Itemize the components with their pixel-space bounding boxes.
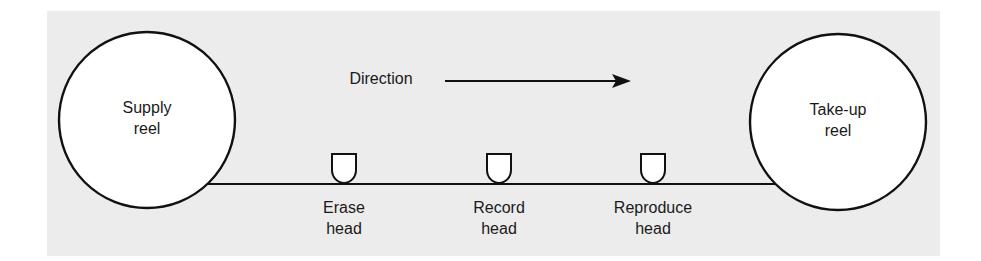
takeup-reel-label-line1: Take-up [788,99,888,120]
erase-head-icon [332,154,356,183]
direction-label: Direction [335,68,427,89]
takeup-reel-label: Take-up reel [788,99,888,141]
reproduce-head-label-line2: head [593,218,713,239]
reproduce-head-icon [641,154,665,183]
supply-reel-label-line2: reel [97,118,197,139]
reproduce-head-label-line1: Reproduce [593,197,713,218]
erase-head-label: Erase head [294,197,394,239]
supply-reel-label-line1: Supply [97,97,197,118]
erase-head-label-line2: head [294,218,394,239]
erase-head-label-line1: Erase [294,197,394,218]
reproduce-head-label: Reproduce head [593,197,713,239]
takeup-reel-label-line2: reel [788,120,888,141]
record-head-icon [487,154,511,183]
supply-reel-label: Supply reel [97,97,197,139]
record-head-label-line2: head [449,218,549,239]
record-head-label-line1: Record [449,197,549,218]
record-head-label: Record head [449,197,549,239]
